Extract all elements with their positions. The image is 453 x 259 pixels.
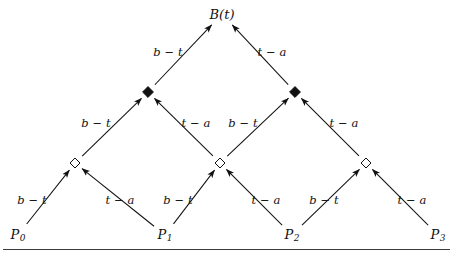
- edge-weight-label: t − a: [182, 118, 211, 130]
- edge-weight-label: t − a: [258, 47, 287, 59]
- control-point-letter: P: [11, 227, 20, 242]
- control-point-letter: P: [158, 227, 167, 242]
- control-point-letter: P: [431, 227, 440, 242]
- edge-weight-label: b − t: [163, 195, 192, 207]
- edge-weight-label: b − t: [228, 118, 257, 130]
- hollow-diamond-node: [70, 158, 80, 168]
- hollow-diamond-node: [215, 158, 225, 168]
- edge-weight-label: t − a: [398, 195, 427, 207]
- edge-weight-label: t − a: [106, 195, 135, 207]
- control-point-label: P1: [158, 228, 173, 243]
- edge-weight-label: b − t: [153, 47, 182, 59]
- control-point-letter: P: [285, 227, 294, 242]
- filled-diamond-node: [143, 87, 154, 98]
- result-label: B(t): [210, 8, 235, 21]
- filled-diamond-node: [290, 87, 301, 98]
- bezier-pyramid-figure: b − tt − ab − tt − ab − tt − ab − tt − a…: [0, 0, 453, 259]
- control-point-label: P2: [285, 228, 300, 243]
- control-point-index: 1: [167, 232, 173, 242]
- edge-weight-label: b − t: [81, 118, 110, 130]
- edge-weight-label: t − a: [252, 195, 281, 207]
- hollow-diamond-node: [361, 158, 371, 168]
- baseline-rule: [3, 249, 450, 250]
- control-point-index: 3: [440, 232, 446, 242]
- diagram-canvas: [0, 0, 453, 259]
- control-point-index: 2: [294, 232, 300, 242]
- edge-weight-label: t − a: [330, 118, 359, 130]
- control-point-index: 0: [20, 232, 26, 242]
- nodes-layer: [70, 87, 371, 168]
- edge-weight-label: b − t: [309, 195, 338, 207]
- control-point-label: P3: [431, 228, 446, 243]
- control-point-label: P0: [11, 228, 26, 243]
- edge-weight-label: b − t: [17, 195, 46, 207]
